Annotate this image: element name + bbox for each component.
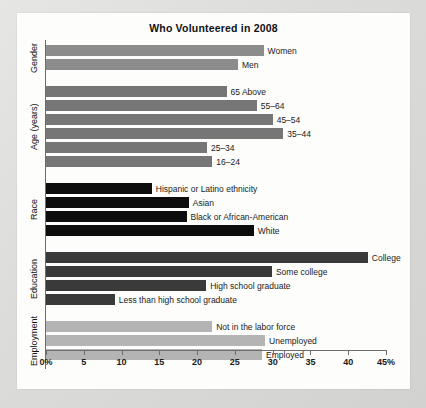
bar xyxy=(46,100,257,111)
bar-label: 25–34 xyxy=(207,143,235,153)
x-tick-label: 45% xyxy=(377,357,395,367)
x-axis: 0%51015202530354045% xyxy=(46,350,386,380)
bar-row: Not in the labor force xyxy=(46,321,386,332)
bar-row: Unemployed xyxy=(46,335,386,346)
x-tick-label: 25 xyxy=(230,357,240,367)
bar-row: Men xyxy=(46,59,386,70)
bar xyxy=(46,45,264,56)
bar xyxy=(46,128,283,139)
group-name-employment: Employment xyxy=(25,321,43,360)
bar-row: Asian xyxy=(46,197,386,208)
x-tick-label: 20 xyxy=(192,357,202,367)
bar-label: College xyxy=(368,253,401,263)
x-tick-label: 35 xyxy=(305,357,315,367)
bar-row: Less than high school graduate xyxy=(46,294,386,305)
bar xyxy=(46,197,189,208)
bar-label: High school graduate xyxy=(206,281,290,291)
bar xyxy=(46,280,206,291)
chart-card: Who Volunteered in 2008 WomenMen65 Above… xyxy=(17,13,410,389)
bar-row: 35–44 xyxy=(46,128,386,139)
bar-row: Some college xyxy=(46,266,386,277)
bar-label: Women xyxy=(264,46,297,56)
bar-label: Less than high school graduate xyxy=(115,295,237,305)
group-name-race: Race xyxy=(25,183,43,236)
x-tick-label: 40 xyxy=(343,357,353,367)
bar-row: 65 Above xyxy=(46,86,386,97)
bar xyxy=(46,266,272,277)
bar-label: Some college xyxy=(272,267,328,277)
group-name-education: Education xyxy=(25,252,43,305)
x-tick-label: 15 xyxy=(154,357,164,367)
bar-label: 16–24 xyxy=(212,157,240,167)
bar-row: 25–34 xyxy=(46,142,386,153)
bar xyxy=(46,156,212,167)
bar-label: Asian xyxy=(189,198,214,208)
bar-label: 65 Above xyxy=(227,87,266,97)
bar xyxy=(46,183,152,194)
bar-row: White xyxy=(46,225,386,236)
bar-row: Hispanic or Latino ethnicity xyxy=(46,183,386,194)
plot-area: WomenMen65 Above55–6445–5435–4425–3416–2… xyxy=(46,40,386,350)
x-tick xyxy=(235,350,236,355)
x-tick-label: 5 xyxy=(81,357,86,367)
bar-label: Men xyxy=(238,60,259,70)
group-name-age-years: Age (years) xyxy=(25,86,43,167)
chart-title: Who Volunteered in 2008 xyxy=(17,22,410,34)
bar-row: College xyxy=(46,252,386,263)
bar-label: Unemployed xyxy=(265,336,317,346)
bar xyxy=(46,321,212,332)
bar-label: Black or African-American xyxy=(187,212,289,222)
x-tick xyxy=(197,350,198,355)
bar xyxy=(46,59,238,70)
x-tick xyxy=(46,350,47,355)
bar xyxy=(46,211,187,222)
bar xyxy=(46,294,115,305)
bar-label: 45–54 xyxy=(273,115,301,125)
x-tick-label: 0% xyxy=(39,357,52,367)
bar xyxy=(46,142,207,153)
x-tick xyxy=(273,350,274,355)
x-tick-label: 10 xyxy=(117,357,127,367)
bar-label: Hispanic or Latino ethnicity xyxy=(152,184,258,194)
bar-row: High school graduate xyxy=(46,280,386,291)
bar-label: 35–44 xyxy=(283,129,311,139)
x-tick xyxy=(84,350,85,355)
bar xyxy=(46,225,254,236)
group-name-gender: Gender xyxy=(25,45,43,70)
bar xyxy=(46,114,273,125)
bar-row: 45–54 xyxy=(46,114,386,125)
x-tick xyxy=(348,350,349,355)
bar xyxy=(46,252,368,263)
bar-label: Not in the labor force xyxy=(212,322,295,332)
bar-label: White xyxy=(254,226,280,236)
x-tick-label: 30 xyxy=(268,357,278,367)
bar xyxy=(46,335,265,346)
bar xyxy=(46,86,227,97)
x-axis-line xyxy=(46,350,386,351)
x-tick xyxy=(122,350,123,355)
x-tick xyxy=(386,350,387,355)
bar-label: 55–64 xyxy=(257,101,285,111)
x-tick xyxy=(159,350,160,355)
bar-row: Black or African-American xyxy=(46,211,386,222)
bar-row: 16–24 xyxy=(46,156,386,167)
x-tick xyxy=(310,350,311,355)
bar-row: Women xyxy=(46,45,386,56)
bar-row: 55–64 xyxy=(46,100,386,111)
